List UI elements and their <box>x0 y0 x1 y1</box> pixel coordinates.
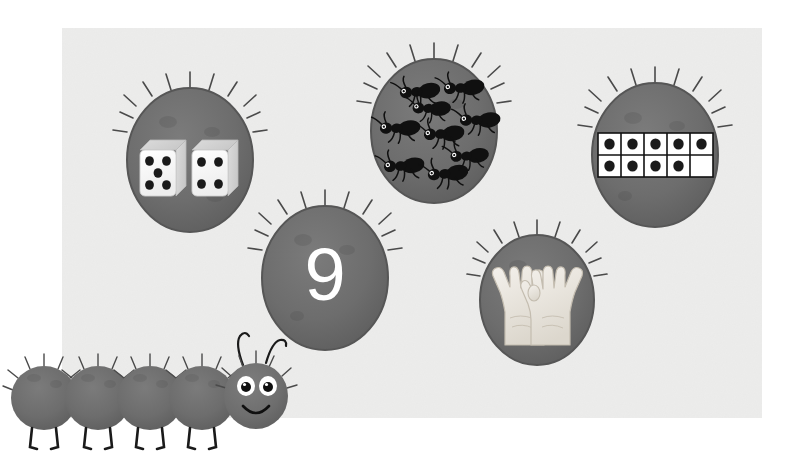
poster-background-panel <box>62 28 762 418</box>
caterpillar-legs <box>84 428 112 449</box>
numeral-nine-text: 9 <box>288 238 362 312</box>
caterpillar-legs <box>30 428 58 449</box>
caterpillar-legs <box>188 428 216 449</box>
caterpillar-legs <box>136 428 164 449</box>
number-nine-poster: 9 <box>0 0 785 468</box>
